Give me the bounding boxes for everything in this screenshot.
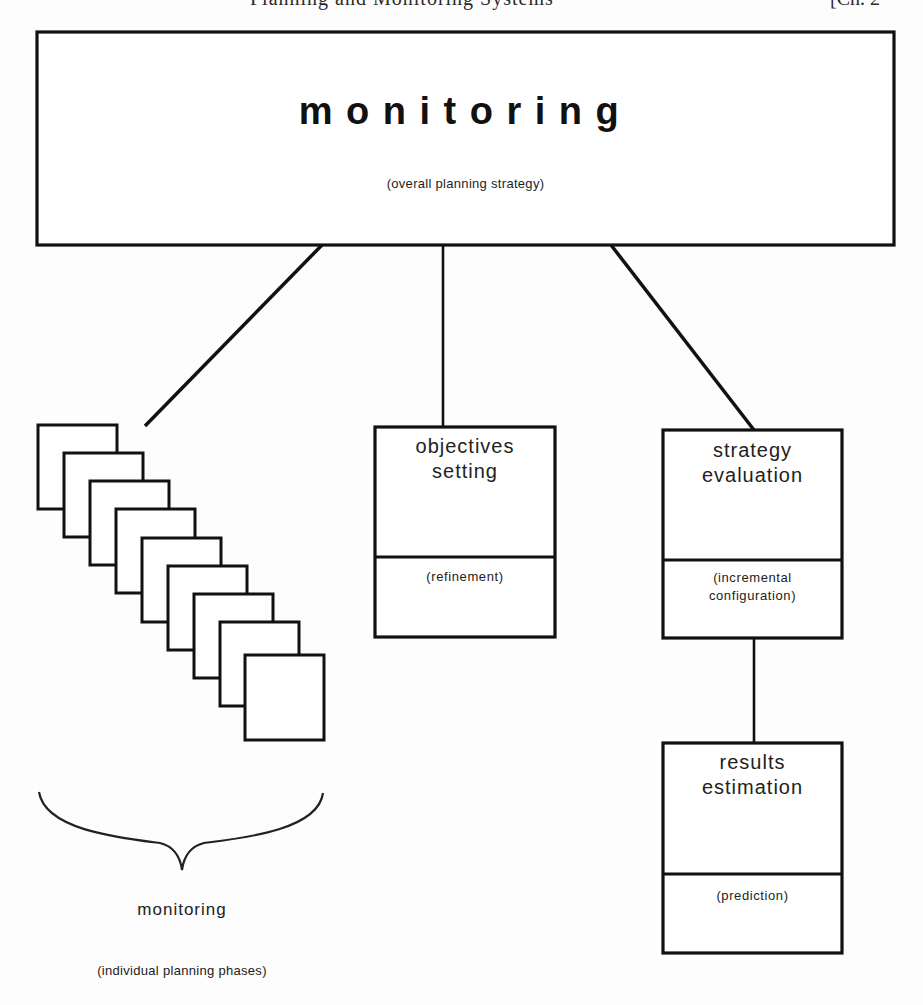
results-estimation-sub: (prediction): [663, 887, 842, 905]
strategy-title-line2: evaluation: [663, 463, 842, 488]
strategy-sub-line1: (incremental: [663, 569, 842, 587]
root-title: monitoring: [37, 90, 894, 133]
root-subtitle: (overall planning strategy): [37, 176, 894, 191]
strategy-title-line1: strategy: [663, 438, 842, 463]
objectives-title-line1: objectives: [375, 434, 555, 459]
planning-phases-stack: [38, 425, 324, 740]
phase-sheet: [245, 655, 324, 740]
curly-brace-icon: [39, 792, 323, 870]
strategy-evaluation-sub: (incremental configuration): [663, 569, 842, 605]
individual-phases-sublabel: (individual planning phases): [40, 963, 324, 978]
connector-root-to-strategy: [611, 245, 754, 430]
objectives-setting-title: objectives setting: [375, 434, 555, 484]
root-monitoring-box: [37, 32, 894, 245]
hierarchy-diagram: [0, 0, 923, 1005]
connector-root-to-phases: [145, 245, 322, 426]
objectives-setting-sub: (refinement): [375, 568, 555, 586]
results-estimation-title: results estimation: [663, 750, 842, 800]
results-title-line1: results: [663, 750, 842, 775]
individual-phases-label: monitoring: [40, 900, 324, 920]
results-title-line2: estimation: [663, 775, 842, 800]
objectives-title-line2: setting: [375, 459, 555, 484]
strategy-sub-line2: configuration): [663, 587, 842, 605]
strategy-evaluation-title: strategy evaluation: [663, 438, 842, 488]
